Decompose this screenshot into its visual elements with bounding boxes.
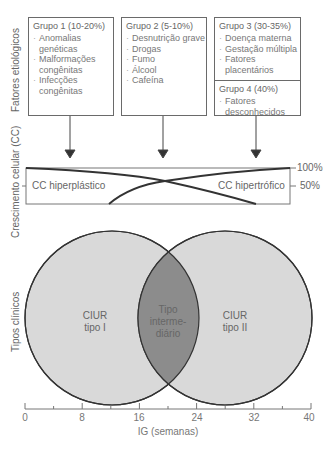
x-axis [25, 403, 311, 409]
x-tick-label: 24 [191, 412, 202, 423]
x-axis-title: IG (semanas) [138, 426, 199, 437]
x-tick-label: 40 [303, 412, 314, 423]
cc-hyperplastic-label: CC hiperplástico [32, 180, 105, 191]
diagram-graphics [0, 0, 332, 452]
ciur-type-1-label: CIUR tipo I [83, 310, 107, 334]
pct-50-label: 50% [300, 180, 320, 191]
pct-100-label: 100% [297, 162, 323, 173]
cc-hypertrophic-label: CC hipertrófico [218, 180, 285, 191]
x-tick-label: 8 [79, 412, 85, 423]
arrow-icon [65, 116, 261, 158]
x-tick-label: 0 [22, 412, 28, 423]
intermediate-type-label: Tipo interme- diário [150, 304, 187, 340]
x-tick-label: 32 [248, 412, 259, 423]
ciur-type-2-label: CIUR tipo II [223, 310, 247, 334]
x-tick-label: 16 [133, 412, 144, 423]
